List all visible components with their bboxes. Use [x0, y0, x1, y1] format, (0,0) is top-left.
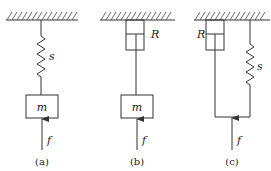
force-label-b: f [141, 134, 148, 147]
damper-label-c: R [196, 28, 205, 41]
mechanical-systems-diagram: s m f (a) R m f ( [0, 0, 271, 171]
force-label-c: f [236, 134, 243, 147]
ceiling-b [100, 12, 175, 20]
caption-b: (b) [130, 156, 144, 167]
spring-label-c: s [257, 60, 263, 73]
diagram-c: R s f (c) [194, 12, 270, 167]
damper-label-b: R [150, 28, 159, 41]
spring-a [37, 20, 45, 95]
mass-label-b: m [132, 101, 142, 114]
diagram-a: s m f (a) [6, 12, 78, 167]
spring-label-a: s [49, 50, 55, 63]
damper-b [126, 20, 144, 95]
spring-c [246, 20, 254, 117]
diagram-b: R m f (b) [100, 12, 175, 167]
mass-label-a: m [37, 101, 47, 114]
force-label-a: f [46, 134, 53, 147]
caption-c: (c) [225, 156, 239, 167]
ceiling-a [6, 12, 78, 20]
caption-a: (a) [35, 156, 49, 167]
damper-c [206, 20, 224, 117]
ceiling-c [194, 12, 270, 20]
